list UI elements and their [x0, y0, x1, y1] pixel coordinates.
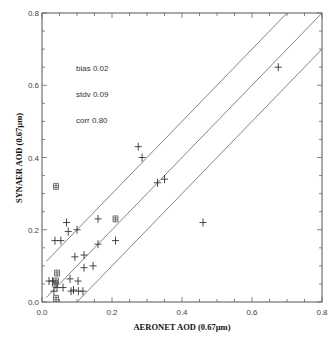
square-marker [55, 270, 60, 276]
cross-marker [75, 277, 82, 285]
cross-marker [135, 143, 142, 151]
y-axis-title: SYNAER AOD (0.67µm) [14, 113, 24, 203]
square-marker [54, 295, 59, 301]
stat-stdv: stdv 0.09 [76, 90, 109, 99]
y-tick-label: 0.2 [28, 226, 40, 235]
cross-marker [112, 237, 119, 245]
x-tick-label: 0.6 [246, 308, 258, 317]
x-tick-label: 0.2 [106, 308, 118, 317]
y-tick-label: 0.0 [28, 298, 40, 307]
y-tick-label: 0.8 [28, 9, 40, 18]
stat-bias: bias 0.02 [76, 64, 109, 73]
cross-marker [81, 264, 88, 272]
cross-marker [81, 251, 88, 259]
cross-marker [95, 215, 102, 223]
cross-marker [63, 219, 70, 227]
plot-area: 0.00.20.40.60.80.00.20.40.60.8 [28, 9, 328, 317]
cross-marker [71, 253, 78, 261]
y-tick-label: 0.4 [28, 154, 40, 163]
cross-marker [161, 175, 168, 183]
square-marker [54, 183, 59, 189]
cross-marker [90, 262, 97, 270]
reference-line [46, 13, 287, 262]
cross-marker [50, 287, 57, 295]
cross-marker [65, 228, 72, 236]
stat-corr: corr 0.80 [76, 116, 108, 125]
reference-line [46, 13, 322, 298]
y-tick-label: 0.6 [28, 81, 40, 90]
reference-line [77, 49, 322, 302]
cross-marker [275, 63, 282, 71]
x-axis-title: AERONET AOD (0.67µm) [133, 322, 230, 332]
x-tick-label: 0.4 [176, 308, 188, 317]
x-tick-label: 0.0 [36, 308, 48, 317]
square-marker [113, 216, 118, 222]
scatter-chart: 0.00.20.40.60.80.00.20.40.60.8 bias 0.02… [0, 0, 335, 339]
x-tick-label: 0.8 [316, 308, 328, 317]
cross-marker [200, 219, 207, 227]
